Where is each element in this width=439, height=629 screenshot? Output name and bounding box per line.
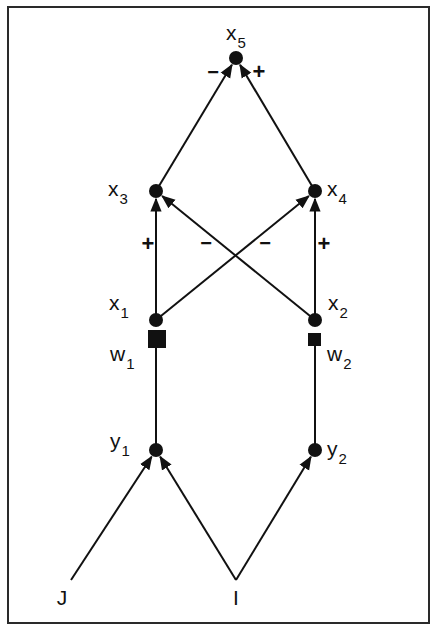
weight-label-w2: w2 bbox=[326, 342, 352, 372]
nodes-layer bbox=[149, 51, 322, 457]
node-label-x4: x4 bbox=[327, 177, 347, 207]
edge-x3-to-x5 bbox=[156, 65, 232, 191]
plus-sign-x2-x4: + bbox=[318, 231, 331, 256]
edges-layer bbox=[71, 65, 315, 580]
plus-sign-x1-x3: + bbox=[142, 231, 155, 256]
node-x1 bbox=[149, 313, 163, 327]
node-label-x5: x5 bbox=[226, 21, 246, 51]
node-label-y2: y2 bbox=[327, 437, 347, 467]
node-x4 bbox=[308, 184, 322, 198]
minus-sign-x2-x3: − bbox=[200, 232, 212, 254]
edge-I-to-y2 bbox=[236, 457, 311, 580]
weight-square-w1 bbox=[148, 330, 166, 348]
minus-sign-x3-x5: − bbox=[207, 61, 219, 83]
input-label-J: J bbox=[57, 586, 68, 609]
plus-sign-x4-x5: + bbox=[253, 59, 266, 84]
weight-label-w1: w1 bbox=[109, 342, 135, 372]
weight-square-w2 bbox=[308, 333, 321, 346]
node-y2 bbox=[308, 443, 322, 457]
weights-layer bbox=[148, 330, 321, 348]
figure-frame bbox=[8, 7, 429, 623]
node-x3 bbox=[149, 184, 163, 198]
edge-x2-to-x3 bbox=[162, 196, 315, 320]
edge-x4-to-x5 bbox=[240, 65, 315, 191]
edge-x1-to-x4 bbox=[156, 196, 309, 320]
node-label-x3: x3 bbox=[108, 177, 128, 207]
minus-sign-x1-x4: − bbox=[259, 232, 271, 254]
edge-I-to-y1 bbox=[160, 457, 236, 580]
edge-signs-layer: −+++−− bbox=[142, 59, 331, 256]
input-label-I: I bbox=[233, 586, 239, 609]
node-label-x1: x1 bbox=[109, 291, 129, 321]
node-y1 bbox=[149, 443, 163, 457]
node-x2 bbox=[308, 313, 322, 327]
node-x5 bbox=[229, 51, 243, 65]
neural-circuit-diagram: −+++−− x5x3x4x1x2y1y2w1w2JI bbox=[0, 0, 439, 629]
diagram-svg: −+++−− x5x3x4x1x2y1y2w1w2JI bbox=[0, 0, 439, 629]
node-label-y1: y1 bbox=[110, 429, 130, 459]
node-label-x2: x2 bbox=[328, 291, 348, 321]
edge-J-to-y1 bbox=[71, 457, 152, 580]
